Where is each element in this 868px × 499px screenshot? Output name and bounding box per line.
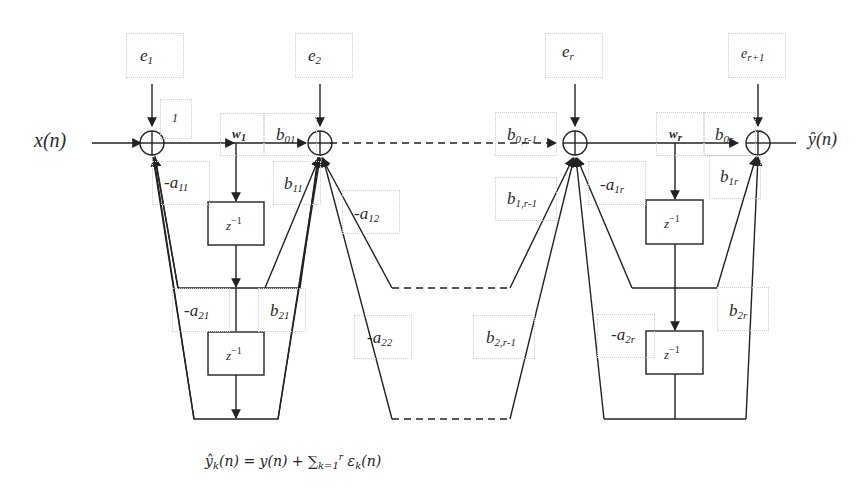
label-box-er [545,33,603,78]
input-label: x(n) [34,130,66,150]
coeff-label-a1r: -a1r [600,176,624,195]
label-box-e1 [126,33,184,78]
coeff-label-b21: b21 [270,302,290,321]
coeff-label-b2r: b2r [729,302,747,321]
coeff-label-a12: -a12 [354,205,379,224]
error-label-e2: e2 [308,47,321,66]
error-label-er1: er+1 [741,47,764,63]
coeff-label-b0r1: b0,r-1 [507,126,537,145]
delay-label-1-2: z−1 [226,346,242,362]
coeff-label-a21: -a21 [184,302,209,321]
weight-label-wr: wr [669,127,682,143]
output-label: ŷ(n) [808,130,837,148]
output-formula: ŷk(n) = y(n) + ∑k=1r εk(n) [205,452,381,471]
coeff-label-a22: -a22 [367,329,392,348]
gain-label: 1 [172,112,178,124]
coeff-label-b1r1: b1,r-1 [507,190,537,209]
delay-label-1-1: z−1 [226,216,242,232]
error-label-e1: e1 [140,47,153,66]
label-box-e2 [295,33,353,78]
weight-label-w1: w1 [232,127,246,143]
coeff-label-b2r1: b2,r-1 [486,329,516,348]
delay-label-r-1: z−1 [664,214,680,230]
coeff-label-b1r: b1r [720,168,738,187]
coeff-label-a11: -a11 [164,174,188,193]
coeff-label-b01: b01 [276,126,296,145]
delay-label-r-2: z−1 [664,345,680,361]
error-label-er: er [562,43,574,62]
coeff-label-b0r: b0r [715,126,733,145]
coeff-label-b11: b11 [284,175,303,194]
sum-junction-r [563,131,587,155]
coeff-label-a2r: -a2r [611,326,635,345]
